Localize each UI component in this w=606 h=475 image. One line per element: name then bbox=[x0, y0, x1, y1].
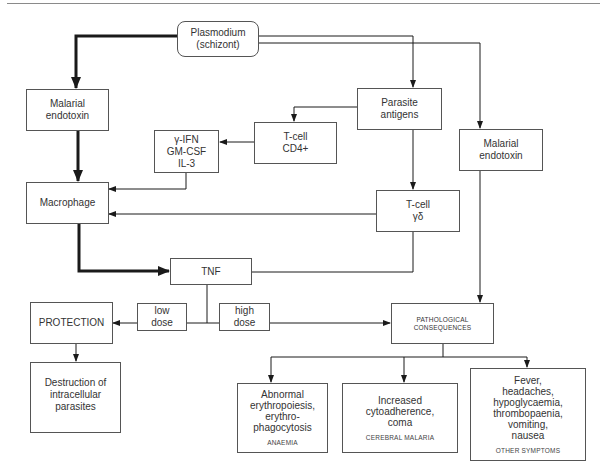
node-label: PATHOLOGICAL CONSEQUENCES bbox=[414, 316, 472, 332]
node-label: TNF bbox=[201, 266, 220, 278]
node-macrophage: Macrophage bbox=[26, 182, 109, 224]
node-label: PROTECTION bbox=[39, 317, 105, 329]
node-label: low dose bbox=[151, 305, 173, 329]
node-label: T-cell CD4+ bbox=[283, 131, 309, 155]
node-label: Malarial endotoxin bbox=[46, 98, 89, 122]
node-malarial-endotoxin-right: Malarial endotoxin bbox=[459, 129, 543, 171]
node-label: Fever, headaches, hypoglycaemia, thrombo… bbox=[493, 375, 563, 441]
node-caption: CEREBRAL MALARIA bbox=[366, 434, 434, 442]
node-label: Malarial endotoxin bbox=[479, 138, 522, 162]
node-label: high dose bbox=[234, 305, 256, 329]
node-pathological-consequences: PATHOLOGICAL CONSEQUENCES bbox=[391, 303, 494, 344]
node-label: Plasmodium (schizont) bbox=[190, 27, 245, 51]
node-label: T-cell γδ bbox=[406, 199, 430, 223]
node-label: Macrophage bbox=[40, 197, 96, 209]
node-label: γ-IFN GM-CSF IL-3 bbox=[167, 134, 206, 170]
node-label: Destruction of intracellular parasites bbox=[45, 377, 107, 413]
node-cerebral-malaria: Increased cytoadherence, coma CEREBRAL M… bbox=[342, 383, 458, 453]
node-low-dose: low dose bbox=[137, 303, 187, 331]
node-label: Parasite antigens bbox=[381, 97, 419, 121]
node-label: Increased cytoadherence, coma bbox=[366, 395, 434, 428]
node-other-symptoms: Fever, headaches, hypoglycaemia, thrombo… bbox=[470, 368, 586, 461]
node-anaemia: Abnormal erythropoiesis, erythro- phagoc… bbox=[237, 383, 328, 453]
node-tcell-gamma-delta: T-cell γδ bbox=[376, 190, 460, 232]
node-protection: PROTECTION bbox=[30, 302, 113, 344]
node-caption: OTHER SYMPTOMS bbox=[496, 447, 560, 455]
node-label: Abnormal erythropoiesis, erythro- phagoc… bbox=[250, 389, 315, 433]
node-malarial-endotoxin-left: Malarial endotoxin bbox=[26, 89, 109, 131]
node-tcell-cd4: T-cell CD4+ bbox=[254, 122, 337, 164]
node-high-dose: high dose bbox=[219, 303, 270, 331]
node-cytokines: γ-IFN GM-CSF IL-3 bbox=[154, 130, 219, 173]
node-caption: ANAEMIA bbox=[267, 439, 298, 447]
node-plasmodium: Plasmodium (schizont) bbox=[177, 21, 259, 57]
node-parasite-antigens: Parasite antigens bbox=[357, 88, 442, 130]
node-tnf: TNF bbox=[170, 258, 252, 285]
node-destruction: Destruction of intracellular parasites bbox=[30, 362, 121, 433]
